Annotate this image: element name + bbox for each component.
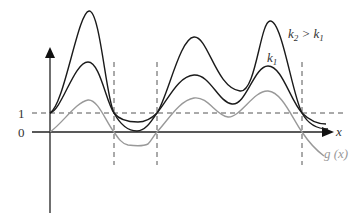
k2-label: k2 > k1 (288, 26, 324, 43)
g-label: g (x) (324, 146, 348, 161)
k2-label-rel-sub: 1 (319, 33, 324, 43)
x-axis-label: x (335, 124, 342, 139)
curve-g (50, 91, 324, 156)
y-tick-label-1: 1 (18, 106, 25, 121)
k1-label: k1 (267, 50, 277, 67)
k1-label-sub: 1 (273, 57, 278, 67)
y-tick-label-0: 0 (18, 125, 25, 140)
y-axis-arrow-icon (45, 47, 55, 58)
curve-k1 (50, 62, 326, 124)
diagram: 1 0 x k2 > k1 k1 g (x) (0, 0, 364, 224)
k2-label-rel: > k (298, 26, 319, 41)
